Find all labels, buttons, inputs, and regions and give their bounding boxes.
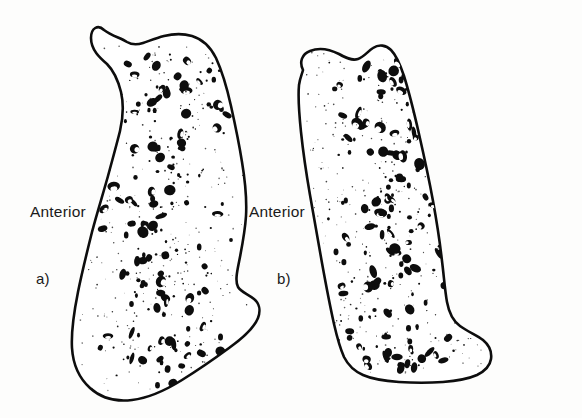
bone-section-b — [299, 46, 492, 383]
panel-label-a: a) — [36, 270, 50, 287]
panel-label-b: b) — [277, 270, 291, 287]
figure-canvas: Anterior Anterior a) b) — [0, 0, 582, 418]
bone-section-a — [72, 27, 260, 400]
bone-outline-b — [299, 46, 492, 383]
anterior-label-b: Anterior — [249, 203, 305, 221]
anterior-label-a: Anterior — [30, 203, 86, 221]
